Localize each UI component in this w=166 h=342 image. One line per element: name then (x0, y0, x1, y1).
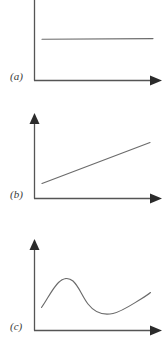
panel-a-plot: (a) (0, 0, 166, 114)
panel-c-plot: (c) (0, 226, 166, 342)
panel-a-x-axis-arrow-icon (150, 76, 162, 86)
panel-b-plot: (b) (0, 114, 166, 226)
panel-c-y-axis-arrow-icon (30, 239, 40, 250)
panel-b-x-axis-arrow-icon (150, 194, 162, 204)
panel-a-data-line (42, 39, 153, 40)
figure-root: (a) (b) (0, 0, 166, 342)
panel-c-x-axis-arrow-icon (150, 326, 162, 336)
panel-b-label: (b) (10, 188, 23, 201)
panel-b-y-axis-arrow-icon (30, 113, 40, 124)
panel-a-label: (a) (10, 70, 23, 83)
panel-b: (b) (0, 114, 166, 226)
panel-c-data-curve (42, 278, 151, 314)
panel-c-label: (c) (10, 320, 23, 333)
panel-a: (a) (0, 0, 166, 114)
panel-b-data-line (42, 143, 150, 184)
panel-c: (c) (0, 226, 166, 342)
